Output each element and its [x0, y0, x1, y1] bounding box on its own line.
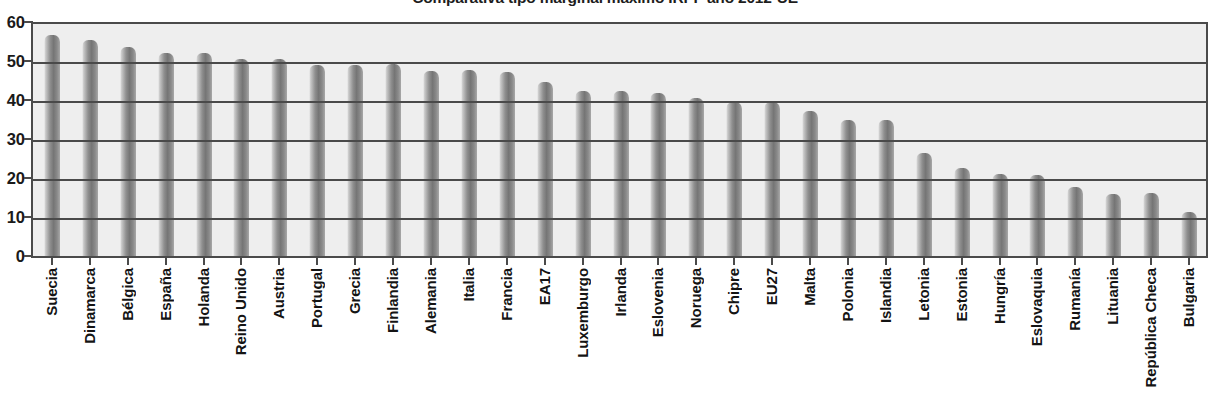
x-tick-label: Grecia — [347, 268, 362, 314]
x-tick-label: Francia — [499, 268, 514, 321]
x-tick-label: Malta — [802, 268, 817, 306]
x-tick-label: Finlandia — [385, 268, 400, 333]
bar — [1029, 175, 1045, 256]
y-tick-mark — [24, 255, 33, 257]
x-tick-mark — [51, 256, 53, 265]
y-tick-label: 60 — [7, 14, 25, 31]
plot-area — [33, 22, 1208, 256]
x-tick-mark — [1150, 256, 1152, 265]
x-tick-mark — [240, 256, 242, 265]
x-tick-label: Polonia — [840, 268, 855, 321]
x-tick-mark — [544, 256, 546, 265]
x-axis: SueciaDinamarcaBélgicaEspañaHolandaReino… — [33, 268, 1208, 418]
x-tick-mark — [430, 256, 432, 265]
bar — [44, 35, 60, 256]
x-tick-label: Hungría — [992, 268, 1007, 324]
chart-title: Comparativa tipo marginal máximo IRPF añ… — [0, 0, 1210, 7]
x-tick-label: España — [158, 268, 173, 321]
x-tick-label: Austria — [271, 268, 286, 319]
x-tick-mark — [392, 256, 394, 265]
bar — [347, 65, 363, 256]
x-tick-mark — [506, 256, 508, 265]
y-tick-label: 30 — [7, 131, 25, 148]
x-tick-label: Letonia — [916, 268, 931, 321]
x-tick-label: Bulgaria — [1181, 268, 1196, 327]
x-tick-label: Islandia — [878, 268, 893, 323]
gridline — [33, 218, 1206, 220]
bar — [650, 93, 666, 256]
x-tick-mark — [657, 256, 659, 265]
y-tick-mark — [24, 99, 33, 101]
x-tick-mark — [771, 256, 773, 265]
y-tick-mark — [24, 177, 33, 179]
x-tick-mark — [89, 256, 91, 265]
x-tick-mark — [203, 256, 205, 265]
bar — [158, 53, 174, 256]
x-tick-mark — [582, 256, 584, 265]
x-tick-label: Irlanda — [613, 268, 628, 316]
gridline — [33, 101, 1206, 103]
x-tick-mark — [165, 256, 167, 265]
x-tick-label: Noruega — [688, 268, 703, 328]
x-tick-mark — [620, 256, 622, 265]
bar — [802, 111, 818, 256]
x-tick-label: Estonia — [954, 268, 969, 321]
bar — [120, 47, 136, 256]
bar — [196, 53, 212, 256]
x-tick-mark — [885, 256, 887, 265]
x-tick-mark — [1036, 256, 1038, 265]
bar — [916, 153, 932, 256]
gridline — [33, 179, 1206, 181]
gridline — [33, 62, 1206, 64]
x-tick-mark — [1188, 256, 1190, 265]
x-tick-label: Holanda — [196, 268, 211, 326]
x-tick-label: Rumanía — [1067, 268, 1082, 331]
y-tick-mark — [24, 21, 33, 23]
x-tick-label: Suecia — [44, 268, 59, 316]
x-tick-label: Alemania — [423, 268, 438, 334]
bar — [613, 91, 629, 256]
x-tick-label: Reino Unido — [233, 268, 248, 355]
bar — [575, 91, 591, 256]
x-tick-mark — [278, 256, 280, 265]
x-tick-mark — [1112, 256, 1114, 265]
x-tick-label: EA17 — [537, 268, 552, 305]
x-tick-mark — [847, 256, 849, 265]
bar — [1143, 193, 1159, 256]
bar — [688, 98, 704, 256]
x-tick-mark — [809, 256, 811, 265]
x-tick-mark — [354, 256, 356, 265]
y-tick-mark — [24, 216, 33, 218]
bar-chart: Comparativa tipo marginal máximo IRPF añ… — [0, 0, 1210, 418]
y-tick-label: 20 — [7, 170, 25, 187]
x-tick-mark — [1074, 256, 1076, 265]
bar — [423, 71, 439, 256]
bar — [537, 82, 553, 256]
x-tick-label: Lituania — [1105, 268, 1120, 325]
gridline — [33, 140, 1206, 142]
x-tick-label: Dinamarca — [82, 268, 97, 344]
x-tick-mark — [999, 256, 1001, 265]
x-tick-label: Bélgica — [120, 268, 135, 321]
bar — [271, 59, 287, 256]
x-tick-label: Portugal — [309, 268, 324, 328]
bar — [992, 174, 1008, 256]
bar — [954, 168, 970, 256]
x-tick-label: Eslovaquia — [1029, 268, 1044, 346]
bar — [309, 65, 325, 256]
x-tick-mark — [695, 256, 697, 265]
x-tick-label: República Checa — [1143, 268, 1158, 387]
bar — [385, 64, 401, 256]
x-tick-label: Eslovenia — [650, 268, 665, 337]
x-tick-mark — [733, 256, 735, 265]
bar — [82, 40, 98, 256]
x-tick-label: Chipre — [726, 268, 741, 315]
y-tick-mark — [24, 138, 33, 140]
bar — [499, 72, 515, 256]
x-tick-label: Italia — [461, 268, 476, 302]
x-tick-mark — [961, 256, 963, 265]
x-tick-mark — [923, 256, 925, 265]
bar — [1105, 194, 1121, 256]
x-tick-label: EU27 — [764, 268, 779, 305]
y-tick-label: 40 — [7, 92, 25, 109]
